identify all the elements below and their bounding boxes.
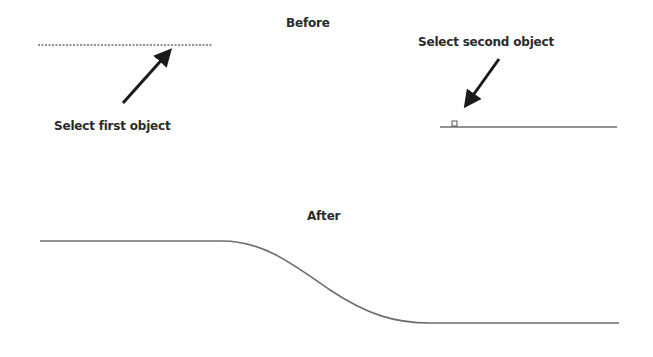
pick-box-icon: [452, 121, 457, 126]
first-object-arrow: [123, 55, 166, 103]
blend-diagram: [0, 0, 653, 357]
blend-curve[interactable]: [40, 241, 619, 323]
second-object-arrow: [469, 59, 499, 101]
